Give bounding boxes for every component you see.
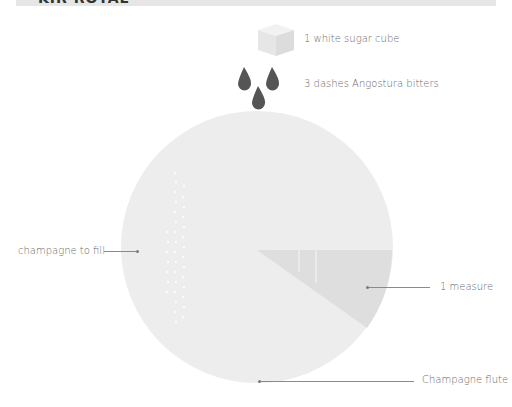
measure-leader-dot bbox=[366, 286, 369, 289]
measure-leader-line bbox=[368, 287, 430, 288]
glass-leader-line bbox=[260, 381, 414, 382]
bitters-label: 3 dashes Angostura bitters bbox=[304, 78, 439, 89]
sugar-cube-label: 1 white sugar cube bbox=[304, 33, 399, 44]
champagne-label: champagne to fill bbox=[18, 245, 105, 256]
glass-leader-dot bbox=[258, 380, 261, 383]
bitters-drops-icon bbox=[238, 67, 279, 110]
cocktail-diagram bbox=[0, 0, 512, 407]
champagne-leader-dot bbox=[136, 250, 139, 253]
champagne-leader-line bbox=[104, 251, 136, 252]
glass-label: Champagne flute bbox=[422, 374, 508, 385]
sugar-cube-icon bbox=[258, 24, 294, 56]
measure-label: 1 measure bbox=[440, 281, 493, 292]
champagne-flute-diagram bbox=[121, 111, 393, 383]
